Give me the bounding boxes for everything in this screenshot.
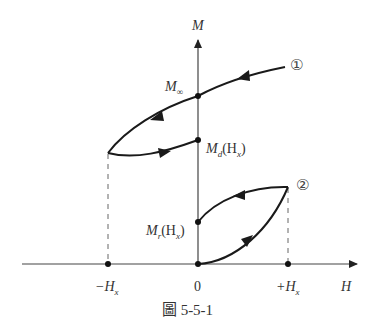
figure-caption: 圖 5-5-1 [0,298,375,319]
point-m-d [195,137,201,143]
curve-2-label: ② [296,178,309,193]
point-m-inf [195,93,201,99]
point-m-r [195,219,201,225]
point-pos-hx [285,261,291,267]
tick-zero: 0 [194,280,201,294]
point-neg-hx [105,261,111,267]
tick-neg-hx: −Hx [95,280,119,297]
m-inf-label: M∞ [165,80,183,97]
m-d-label: Md(Hx) [206,142,246,159]
m-r-label: Mr(Hx) [146,224,185,241]
curve-1-label: ① [290,58,303,73]
curve-1-lower [108,140,198,156]
x-axis-label: H [341,280,351,294]
y-axis-label: M [192,19,204,33]
point-origin [195,261,201,267]
hysteresis-diagram [0,0,375,328]
tick-pos-hx: +Hx [276,280,300,297]
